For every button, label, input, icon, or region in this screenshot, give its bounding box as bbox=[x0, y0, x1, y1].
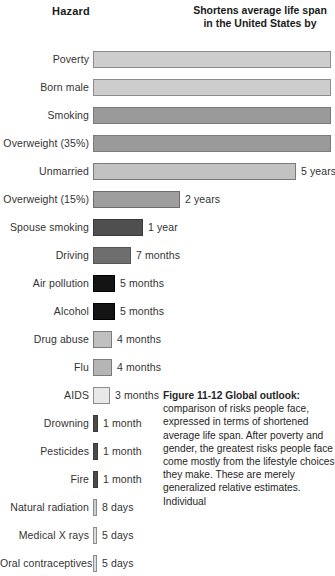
hazard-label: Pesticides bbox=[0, 445, 93, 457]
bar-area: 4 months bbox=[93, 353, 335, 381]
chart-row: Air pollution5 months bbox=[0, 269, 335, 297]
column-header-life-span-line2: in the United States by bbox=[185, 17, 335, 30]
hazard-label: Flu bbox=[0, 361, 93, 373]
bar-value-label: 5 months bbox=[120, 277, 164, 289]
chart-row: Oral contraceptives5 days bbox=[0, 549, 335, 576]
hazard-bar bbox=[93, 219, 143, 236]
figure-caption-body: comparison of risks people face, express… bbox=[163, 403, 335, 506]
bar-value-label: 8 days bbox=[102, 501, 134, 513]
hazard-label: Poverty bbox=[0, 53, 93, 65]
hazard-label: Overweight (35%) bbox=[0, 137, 93, 149]
hazard-bar bbox=[93, 303, 115, 320]
bar-area: 1 year bbox=[93, 213, 335, 241]
bar-value-label: 4 months bbox=[117, 361, 161, 373]
bar-area bbox=[93, 45, 335, 73]
bar-value-label: 5 months bbox=[120, 305, 164, 317]
chart-row: Overweight (15%)2 years bbox=[0, 185, 335, 213]
hazard-bar bbox=[93, 191, 180, 208]
hazard-bar bbox=[93, 443, 98, 460]
hazard-label: Natural radiation bbox=[0, 501, 93, 513]
chart-row: Born male bbox=[0, 73, 335, 101]
hazard-bar bbox=[93, 79, 331, 96]
bar-area bbox=[93, 101, 335, 129]
bar-area: 5 months bbox=[93, 297, 335, 325]
figure-caption-title: Figure 11-12 Global outlook: bbox=[163, 390, 300, 401]
chart-row: Smoking bbox=[0, 101, 335, 129]
bar-value-label: 1 year bbox=[148, 221, 178, 233]
chart-row: Drug abuse4 months bbox=[0, 325, 335, 353]
hazard-bar bbox=[93, 51, 331, 68]
hazard-bar bbox=[93, 135, 331, 152]
bar-value-label: 4 months bbox=[117, 333, 161, 345]
bar-area: 2 years bbox=[93, 185, 335, 213]
chart-row: Medical X rays5 days bbox=[0, 521, 335, 549]
chart-row: Overweight (35%) bbox=[0, 129, 335, 157]
hazard-bar bbox=[93, 275, 115, 292]
hazard-bar bbox=[93, 359, 112, 376]
hazard-label: Overweight (15%) bbox=[0, 193, 93, 205]
hazard-label: Medical X rays bbox=[0, 529, 93, 541]
hazard-label: Drowning bbox=[0, 417, 93, 429]
chart-row: Flu4 months bbox=[0, 353, 335, 381]
chart-row: Spouse smoking1 year bbox=[0, 213, 335, 241]
hazard-label: Driving bbox=[0, 249, 93, 261]
hazard-bar bbox=[93, 107, 331, 124]
hazard-label: Fire bbox=[0, 473, 93, 485]
chart-row: Alcohol5 months bbox=[0, 297, 335, 325]
bar-value-label: 5 years bbox=[301, 165, 335, 177]
hazard-bar bbox=[93, 555, 97, 572]
bar-value-label: 5 days bbox=[102, 557, 134, 569]
bar-area: 5 days bbox=[93, 521, 335, 549]
column-header-life-span-line1: Shortens average life span bbox=[185, 4, 335, 17]
column-header-hazard: Hazard bbox=[52, 5, 90, 17]
hazard-label: Oral contraceptives bbox=[0, 557, 93, 569]
hazard-label: Alcohol bbox=[0, 305, 93, 317]
hazard-bar bbox=[93, 247, 131, 264]
hazard-bar bbox=[93, 499, 97, 516]
chart-row: Poverty bbox=[0, 45, 335, 73]
hazard-bar bbox=[93, 527, 97, 544]
hazard-bar bbox=[93, 163, 296, 180]
hazard-label: Spouse smoking bbox=[0, 221, 93, 233]
hazard-bar bbox=[93, 471, 98, 488]
chart-row: Driving7 months bbox=[0, 241, 335, 269]
bar-area bbox=[93, 73, 335, 101]
bar-area: 4 months bbox=[93, 325, 335, 353]
bar-value-label: 5 days bbox=[102, 529, 134, 541]
column-header-life-span: Shortens average life span in the United… bbox=[185, 4, 335, 30]
hazard-label: Air pollution bbox=[0, 277, 93, 289]
bar-value-label: 1 month bbox=[103, 445, 142, 457]
bar-value-label: 3 months bbox=[115, 389, 159, 401]
hazard-label: Smoking bbox=[0, 109, 93, 121]
figure-caption: Figure 11-12 Global outlook: comparison … bbox=[163, 389, 335, 508]
bar-area: 5 days bbox=[93, 549, 335, 576]
hazard-label: Born male bbox=[0, 81, 93, 93]
hazard-label: AIDS bbox=[0, 389, 93, 401]
bar-area: 5 months bbox=[93, 269, 335, 297]
bar-value-label: 2 years bbox=[185, 193, 220, 205]
hazard-label: Unmarried bbox=[0, 165, 93, 177]
hazard-bar bbox=[93, 387, 110, 404]
hazard-bar bbox=[93, 415, 98, 432]
bar-value-label: 7 months bbox=[136, 249, 180, 261]
hazard-label: Drug abuse bbox=[0, 333, 93, 345]
hazard-bar bbox=[93, 331, 112, 348]
chart-row: Unmarried5 years bbox=[0, 157, 335, 185]
bar-area: 5 years bbox=[93, 157, 335, 185]
bar-area bbox=[93, 129, 335, 157]
bar-area: 7 months bbox=[93, 241, 335, 269]
bar-value-label: 1 month bbox=[103, 417, 142, 429]
bar-value-label: 1 month bbox=[103, 473, 142, 485]
